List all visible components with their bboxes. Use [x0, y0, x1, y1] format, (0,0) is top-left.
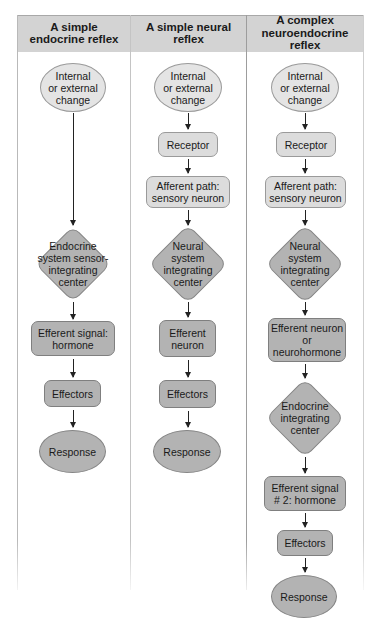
receptor-node: Receptor — [158, 132, 218, 157]
column-title-endocrine: A simple endocrine reflex — [18, 17, 130, 49]
effectors-node: Effectors — [159, 380, 216, 408]
response-node: Response — [271, 575, 337, 618]
arrow — [73, 410, 74, 427]
effectors-node: Effectors — [277, 530, 333, 556]
arrow — [305, 159, 306, 173]
efferent-node: Efferent neuron — [159, 320, 216, 357]
integrator-label: Neural system integrating center — [264, 227, 346, 301]
arrow — [305, 210, 306, 225]
stimulus-node: Internal or external change — [40, 63, 106, 112]
arrow — [73, 302, 74, 319]
efferent-node: Efferent signal: hormone — [31, 321, 115, 356]
effectors-node: Effectors — [44, 380, 101, 407]
afferent-node: Afferent path: sensory neuron — [146, 176, 230, 208]
arrow — [305, 558, 306, 572]
integrator-node: Endocrine system sensor- integrating cen… — [34, 228, 112, 300]
column-title-neural: A simple neural reflex — [131, 17, 246, 49]
arrow — [188, 302, 189, 317]
response-node: Response — [153, 430, 221, 473]
stimulus-node: Internal or external change — [154, 63, 222, 112]
arrow — [188, 210, 189, 225]
receptor-node: Receptor — [276, 132, 336, 157]
column-title-neuroendocrine: A complex neuroendocrine reflex — [247, 17, 363, 49]
column-divider — [246, 15, 247, 590]
arrow — [305, 513, 306, 527]
arrow — [188, 360, 189, 377]
arrow — [188, 159, 189, 173]
integrator-label: Endocrine system sensor- integrating cen… — [34, 228, 112, 300]
arrow — [305, 113, 306, 129]
response-node: Response — [39, 430, 106, 473]
arrow — [305, 364, 306, 378]
arrow — [188, 113, 189, 129]
afferent-node: Afferent path: sensory neuron — [265, 176, 346, 208]
arrow — [73, 359, 74, 377]
stimulus-node: Internal or external change — [271, 63, 339, 112]
arrow — [305, 457, 306, 473]
integrator2-label: Endocrine integrating center — [266, 380, 344, 456]
arrow — [73, 113, 74, 225]
integrator2-node: Endocrine integrating center — [266, 380, 344, 456]
integrator-node: Neural system integrating center — [264, 227, 346, 301]
integrator-label: Neural system integrating center — [147, 227, 229, 301]
arrow — [305, 302, 306, 315]
efferent2-node: Efferent signal # 2: hormone — [264, 476, 346, 511]
arrow — [188, 411, 189, 427]
integrator-node: Neural system integrating center — [147, 227, 229, 301]
column-divider — [130, 15, 131, 590]
efferent-node: Efferent neuron or neurohormone — [268, 318, 346, 362]
